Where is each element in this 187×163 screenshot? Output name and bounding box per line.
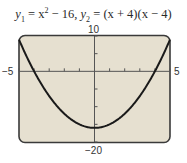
graph-screen	[0, 0, 187, 163]
